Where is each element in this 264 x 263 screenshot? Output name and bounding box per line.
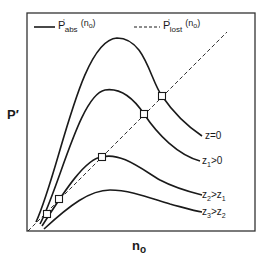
curve-z1 (40, 90, 200, 224)
curve-label-z3: z3>z2 (202, 206, 226, 217)
legend-dashed-label: P'lost (no) (163, 19, 200, 31)
x-axis-label: no (132, 238, 146, 253)
curve-label-z0: z=0 (205, 130, 221, 141)
curve-z0 (36, 38, 202, 222)
y-axis-label: P′ (7, 107, 19, 122)
curve-label-z1: z1>0 (202, 155, 222, 166)
diagram (0, 0, 264, 263)
legend-solid-label: P'abs (no) (58, 19, 96, 31)
intersection-marker (141, 111, 148, 118)
intersection-marker (159, 93, 166, 100)
curve-label-z2: z2>z1 (202, 189, 226, 200)
intersection-marker (44, 211, 51, 218)
intersection-marker (99, 154, 106, 161)
intersection-marker (56, 196, 63, 203)
curve-z3 (44, 190, 202, 229)
